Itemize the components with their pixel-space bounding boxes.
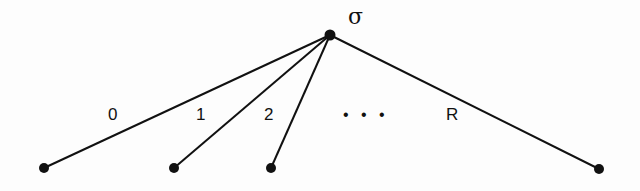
leaf-node-0 <box>39 163 49 173</box>
edge-label-0: 0 <box>108 106 117 123</box>
leaf-node-2 <box>266 163 276 173</box>
edge-label-R: R <box>446 106 458 123</box>
root-node <box>325 30 336 41</box>
edge-2 <box>271 35 330 168</box>
tree-edges <box>0 0 640 191</box>
edge-0 <box>44 35 330 168</box>
ellipsis: • • • <box>343 107 389 123</box>
leaf-node-1 <box>169 163 179 173</box>
tree-diagram: σ 0 1 2 • • • R <box>0 0 640 191</box>
root-label: σ <box>348 6 363 28</box>
leaf-node-R <box>594 164 604 174</box>
edge-1 <box>174 35 330 168</box>
edge-R <box>330 35 599 169</box>
edge-label-1: 1 <box>196 106 205 123</box>
edge-label-2: 2 <box>264 106 273 123</box>
